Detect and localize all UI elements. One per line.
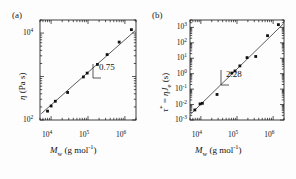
panel-b-ytick--2: 10-2 [168,100,187,109]
panel-b-ytick-1: 101 [168,53,187,62]
panel-b-ytick--3: 10-3 [168,115,187,124]
panel-a-slope-label: 0.75 [99,62,115,72]
panel-a-x-axis-title: Mw (g mol-1) [50,145,97,155]
figure-root: (a) 104 102 104 105 106 η (Pa s) Mw (g m… [0,0,296,179]
panel-b: (b) τ* = ηJe (s) Mw (g mol-1) 2.28 10-31… [148,0,296,179]
panel-a-xtick-1e4: 104 [42,130,52,139]
panel-b-ytick--1: 10-1 [168,84,187,93]
panel-a-y-axis-title: η (Pa s) [17,73,27,100]
panel-b-xtick-1e4: 104 [192,130,202,139]
panel-b-xtick-1e6: 106 [264,130,274,139]
panel-a: (a) 104 102 104 105 106 η (Pa s) Mw (g m… [0,0,148,179]
panel-b-ytick-0: 100 [168,69,187,78]
panel-a-xtick-1e6: 106 [116,130,126,139]
panel-b-slope-label: 2.28 [226,69,242,79]
panel-b-ytick-2: 102 [168,38,187,47]
panel-a-ytick-bottom: 102 [23,115,33,124]
panel-b-xtick-1e5: 105 [228,130,238,139]
panel-b-x-axis-title: Mw (g mol-1) [195,145,242,155]
panel-b-ytick-3: 103 [168,22,187,31]
panel-a-xtick-1e5: 105 [79,130,89,139]
panel-a-ytick-top: 104 [23,28,33,37]
